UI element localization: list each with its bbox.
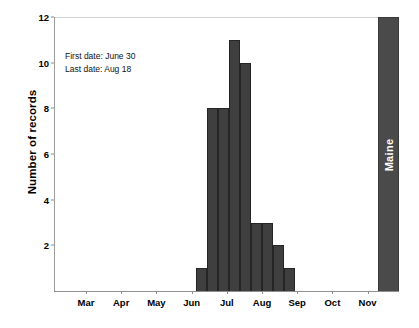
y-tick-mark [51, 17, 54, 18]
x-tick-label: Jun [172, 297, 212, 308]
y-tick-mark [51, 199, 54, 200]
bar-bin-8[interactable] [273, 245, 284, 291]
x-tick-label: Jul [207, 297, 247, 308]
x-tick-mark [297, 291, 298, 294]
y-tick-label: 6 [27, 149, 49, 160]
y-tick-label: 12 [27, 12, 49, 23]
y-tick-label: 10 [27, 57, 49, 68]
x-tick-mark [368, 291, 369, 294]
y-tick-label: 4 [27, 194, 49, 205]
bar-bin-6[interactable] [251, 223, 262, 292]
x-tick-label: May [136, 297, 176, 308]
x-tick-mark [262, 291, 263, 294]
first-date-text: First date: June 30 [65, 50, 135, 63]
x-tick-mark [332, 291, 333, 294]
bar-maine-label: Maine [383, 138, 395, 171]
x-tick-label: Oct [312, 297, 352, 308]
x-tick-mark [156, 291, 157, 294]
y-tick-mark [51, 108, 54, 109]
bar-bin-5[interactable] [240, 63, 251, 291]
bar-bin-1[interactable] [196, 268, 207, 291]
y-tick-mark [51, 245, 54, 246]
last-date-text: Last date: Aug 18 [65, 63, 135, 76]
bar-bin-7[interactable] [262, 223, 273, 292]
bar-maine[interactable]: Maine [378, 17, 399, 291]
y-tick-mark [51, 154, 54, 155]
bar-bin-3[interactable] [218, 108, 229, 291]
bar-bin-4[interactable] [229, 40, 240, 291]
y-tick-mark [51, 62, 54, 63]
x-tick-label: Mar [66, 297, 106, 308]
x-tick-mark [227, 291, 228, 294]
x-tick-label: Nov [348, 297, 388, 308]
x-tick-label: Apr [101, 297, 141, 308]
bar-bin-9[interactable] [284, 268, 295, 291]
x-tick-label: Sep [277, 297, 317, 308]
x-tick-mark [192, 291, 193, 294]
x-tick-label: Aug [242, 297, 282, 308]
y-axis-title: Number of records [26, 47, 38, 237]
date-range-annotation: First date: June 30 Last date: Aug 18 [65, 50, 135, 76]
histogram-chart: Number of records 24681012 Maine MarAprM… [0, 0, 419, 328]
x-tick-mark [121, 291, 122, 294]
x-tick-mark [86, 291, 87, 294]
y-tick-label: 8 [27, 103, 49, 114]
y-tick-label: 2 [27, 240, 49, 251]
bar-bin-2[interactable] [207, 108, 218, 291]
